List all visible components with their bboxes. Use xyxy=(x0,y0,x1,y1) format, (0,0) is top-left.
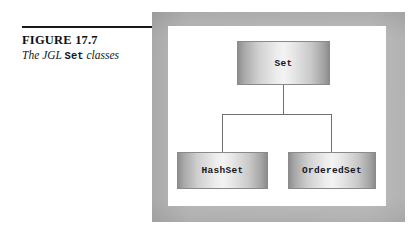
figure-title-prefix: The JGL xyxy=(22,49,65,61)
class-box-set: Set xyxy=(237,41,330,85)
figure-number: FIGURE 17.7 xyxy=(22,33,162,47)
figure-title-suffix: classes xyxy=(84,49,119,61)
figure-caption: FIGURE 17.7 The JGL Set classes xyxy=(22,26,162,63)
class-box-orderedset: OrderedSet xyxy=(288,152,376,189)
caption-rule xyxy=(22,26,160,28)
figure-title: The JGL Set classes xyxy=(22,48,162,63)
connector-horizontal-bar xyxy=(222,114,332,115)
class-box-hashset: HashSet xyxy=(177,152,268,189)
figure-title-code: Set xyxy=(65,50,84,62)
connector-drop-orderedset xyxy=(331,114,332,152)
class-box-set-label: Set xyxy=(274,58,292,69)
class-box-orderedset-label: OrderedSet xyxy=(302,165,362,176)
class-box-hashset-label: HashSet xyxy=(201,165,243,176)
connector-stem xyxy=(283,85,284,114)
connector-drop-hashset xyxy=(222,114,223,152)
